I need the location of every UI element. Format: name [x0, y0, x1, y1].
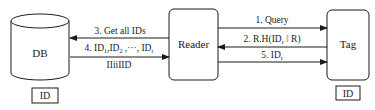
edge-4-label: 4. ID1,ID2 ,···, IDr [85, 43, 154, 54]
edge-5-label: 5. IDr [261, 50, 283, 61]
protocol-diagram: DB ID Reader Tag ID 3. Get all IDs 4. ID… [0, 0, 375, 110]
edge-1-query: 1. Query [218, 15, 327, 28]
tag-id-label: ID [343, 88, 354, 99]
tag-id-box: ID [336, 86, 360, 100]
tag-label: Tag [340, 38, 357, 50]
edge-1-label: 1. Query [255, 15, 288, 25]
db-label: DB [32, 47, 47, 59]
reader-node: Reader [169, 9, 218, 80]
edge-3-label: 3. Get all IDs [94, 26, 145, 36]
edge-5-id: 5. IDr [218, 50, 327, 62]
reader-label: Reader [178, 38, 209, 50]
db-id-label: ID [40, 90, 51, 101]
edge-2-label: 2. R.H(IDr ‖ R) [243, 34, 300, 45]
db-id-box: ID [32, 88, 58, 103]
edge-4-id-list: 4. ID1,ID2 ,···, IDr IIiiIID [70, 43, 169, 70]
db-node: DB [11, 14, 69, 80]
edge-3-get-all-ids: 3. Get all IDs [70, 26, 169, 38]
db-cylinder-top [11, 14, 69, 28]
edge-4-sublabel: IIiiIID [107, 60, 132, 70]
edge-2-hash-response: 2. R.H(IDr ‖ R) [218, 34, 327, 47]
tag-node: Tag [327, 10, 369, 80]
